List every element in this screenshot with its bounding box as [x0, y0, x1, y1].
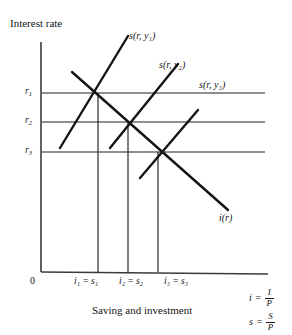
definition-s-equals: =	[256, 317, 263, 327]
x-tick-q2: i₂ = s₂	[119, 277, 143, 287]
definition-i-fraction: I P	[265, 288, 275, 308]
y-tick-r3: r3	[25, 146, 32, 156]
x-tick-q3: i₃ = s₃	[164, 277, 188, 287]
curve-label-s-y3: s(r, y₃)	[199, 80, 225, 90]
definition-s-numerator: S	[266, 312, 275, 322]
y-axis-title: Interest rate	[10, 18, 62, 29]
y-tick-r2-sub: 2	[29, 119, 32, 126]
y-tick-r2: r2	[25, 116, 32, 126]
curve-saving-y1	[60, 36, 128, 148]
y-tick-r1-sub: 1	[29, 90, 32, 97]
x-tick-q1: i₁ = s₁	[74, 277, 98, 287]
curve-label-i-r: i(r)	[219, 213, 232, 223]
definition-i-numerator: I	[266, 288, 273, 298]
y-tick-r3-sub: 3	[29, 149, 32, 156]
saving-investment-diagram	[0, 0, 292, 335]
y-tick-r1: r1	[25, 87, 32, 97]
definition-i-lhs: i	[249, 293, 252, 303]
definition-s-lhs: s	[249, 317, 253, 327]
origin-label: 0	[30, 276, 35, 286]
definition-s-denominator: P	[266, 323, 276, 333]
definition-i-equals: =	[255, 293, 262, 303]
definition-s: s = S P	[249, 312, 275, 332]
figure-page: Interest rate s(r, y₁) s(r, y₂) s(r, y₃)…	[0, 0, 292, 335]
x-axis-title: Saving and investment	[92, 305, 192, 316]
definition-i: i = I P	[249, 288, 274, 308]
curve-label-s-y2: s(r, y₂)	[159, 60, 185, 70]
curve-saving-y3	[140, 110, 198, 178]
definition-s-fraction: S P	[266, 312, 276, 332]
definition-i-denominator: P	[265, 299, 275, 309]
x-axis	[41, 272, 268, 274]
curve-label-s-y1: s(r, y₁)	[129, 31, 155, 41]
